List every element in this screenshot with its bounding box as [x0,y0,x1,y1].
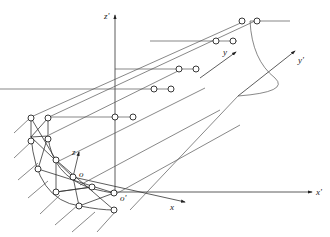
y-label: y [223,48,227,57]
origin-o-prime-label: o' [120,194,126,203]
x-prime-label: x' [316,188,322,197]
support-hatching [14,118,115,232]
y-axis [200,52,236,78]
boundary-curve [238,21,278,96]
structure-drawing [0,0,330,237]
z-prime-label: z' [104,12,109,21]
y-prime-label: y' [298,56,304,65]
strip-lines [31,21,255,210]
y-prime-axis [238,51,295,96]
grid-shell [28,115,117,213]
diagram-canvas: z' x' y' y x z o o' [0,0,330,237]
z-label: z [72,148,76,157]
origin-o-label: o [79,170,84,179]
spring-connectors [0,18,290,120]
x-label: x [170,203,174,212]
